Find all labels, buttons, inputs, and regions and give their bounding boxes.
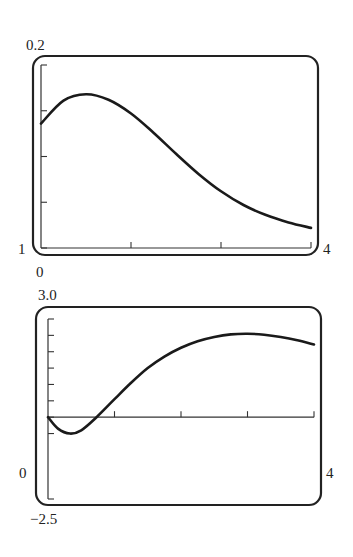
top-curve xyxy=(41,94,311,228)
plot-canvas xyxy=(0,0,353,557)
top-chart-frame xyxy=(33,56,318,255)
bottom-curve xyxy=(48,334,314,434)
